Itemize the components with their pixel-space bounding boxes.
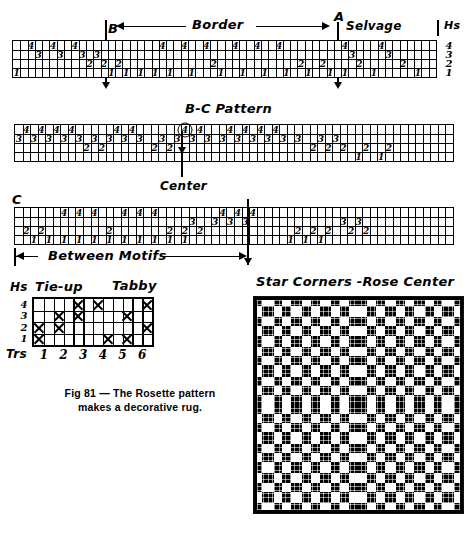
threading-mark: 4 (114, 125, 120, 134)
threading-mark: 4 (152, 208, 158, 217)
threading-mark: 3 (121, 134, 127, 143)
tieup-mark[interactable] (73, 299, 83, 311)
threading-mark: 2 (38, 226, 44, 235)
threading-mark: 2 (348, 226, 354, 235)
threading-mark: 1 (378, 152, 384, 161)
tieup-grid-line-h (34, 311, 152, 312)
threading-mark: 2 (310, 226, 316, 235)
treadle-label-3[interactable]: 3 (79, 349, 87, 361)
threading-mark: 2 (325, 143, 331, 152)
draft2-label-center: Center (160, 180, 207, 192)
threading-mark: 4 (38, 125, 44, 134)
threading-draft-bc-pattern[interactable]: 3434343432323434323234343343434343323232… (14, 124, 454, 162)
threading-draft-border[interactable]: 1434343232121114141421414141212141321432… (12, 40, 437, 78)
between-motifs-arrow-left (16, 252, 24, 260)
treadle-label-1[interactable]: 1 (40, 349, 48, 361)
threading-mark: 4 (242, 125, 248, 134)
threading-mark: 4 (159, 41, 165, 50)
threading-mark: 4 (129, 125, 135, 134)
threading-mark: 4 (136, 208, 142, 217)
threading-mark: 4 (227, 125, 233, 134)
threading-mark: 4 (197, 125, 203, 134)
threading-mark: 4 (76, 208, 82, 217)
tieup-mark[interactable] (103, 334, 113, 346)
threading-mark: 4 (220, 208, 226, 217)
tieup-tabby-grid[interactable]: 4321123456 (32, 297, 154, 347)
threading-mark: 3 (227, 217, 233, 226)
treadle-label-6[interactable]: 6 (138, 349, 146, 361)
threading-mark: 1 (152, 235, 158, 244)
draft1-label-border: Border (192, 18, 244, 31)
threading-mark: 1 (152, 68, 158, 77)
tieup-mark[interactable] (123, 334, 133, 346)
threading-mark: 3 (235, 134, 241, 143)
threading-mark: 4 (121, 208, 127, 217)
threading-mark: 1 (76, 235, 82, 244)
draft3-label-C: C (12, 193, 22, 206)
threading-mark: 2 (320, 59, 326, 68)
threading-mark: 2 (84, 143, 90, 152)
threading-mark: 3 (280, 134, 286, 143)
tieup-mark[interactable] (34, 334, 44, 346)
tieup-mark[interactable] (142, 322, 152, 334)
tieup-mark[interactable] (73, 311, 83, 323)
threading-mark: 4 (91, 208, 97, 217)
tieup-mark[interactable] (54, 311, 64, 323)
threading-mark: 3 (189, 134, 195, 143)
threading-mark: 2 (310, 143, 316, 152)
harness-legend-1: 1 (446, 68, 453, 78)
threading-mark: 3 (349, 50, 355, 59)
threading-mark: 1 (287, 235, 293, 244)
drawdown-title: Star Corners -Rose Center (256, 275, 454, 288)
tieup-title: Tie-up (35, 280, 83, 293)
tieup-mark[interactable] (142, 299, 152, 311)
threading-mark: 1 (327, 68, 333, 77)
treadle-label-2[interactable]: 2 (59, 349, 67, 361)
draft1-label-hs: Hs (444, 20, 460, 31)
tieup-row-label-4: 4 (21, 300, 28, 310)
threading-mark: 1 (91, 235, 97, 244)
threading-mark: 2 (295, 226, 301, 235)
threading-mark: 3 (355, 217, 361, 226)
tieup-mark[interactable] (34, 322, 44, 334)
threading-mark: 2 (363, 226, 369, 235)
threading-mark: 4 (72, 41, 78, 50)
treadle-label-5[interactable]: 5 (118, 349, 126, 361)
draft1-label-selvage: Selvage (346, 20, 402, 32)
threading-mark: 3 (35, 50, 41, 59)
threading-mark: 1 (137, 68, 143, 77)
treadle-label-4[interactable]: 4 (99, 349, 107, 361)
draft1-marker-B-arrow (102, 82, 110, 89)
threading-mark: 3 (79, 50, 85, 59)
threading-mark: 2 (400, 59, 406, 68)
threading-mark: 4 (28, 41, 34, 50)
threading-mark: 3 (16, 134, 22, 143)
threading-mark: 2 (152, 143, 158, 152)
tieup-mark[interactable] (54, 322, 64, 334)
threading-mark: 4 (232, 41, 238, 50)
threading-mark: 2 (363, 143, 369, 152)
threading-mark: 2 (210, 59, 216, 68)
threading-mark: 4 (276, 41, 282, 50)
threading-mark: 1 (261, 68, 267, 77)
tabby-title: Tabby (112, 279, 157, 292)
threading-mark: 1 (14, 68, 20, 77)
tieup-mark[interactable] (93, 299, 103, 311)
threading-mark: 4 (254, 41, 260, 50)
draft1-label-A: A (334, 10, 344, 23)
threading-draft-between-motifs[interactable]: 2121414141214141412121323434341212123232 (14, 207, 454, 245)
threading-mark: 1 (240, 68, 246, 77)
threading-mark: 2 (298, 59, 304, 68)
threading-mark: 2 (356, 59, 362, 68)
threading-mark: 3 (136, 134, 142, 143)
threading-mark: 1 (61, 235, 67, 244)
draft1-border-arrow-left-shaft (124, 26, 186, 27)
figure-caption-line2: makes a decorative rug. (40, 400, 240, 414)
draft1-hs-divider (437, 20, 439, 36)
tieup-mark[interactable] (123, 311, 133, 323)
threading-mark: 4 (61, 208, 67, 217)
tieup-label-hs: Hs (10, 281, 28, 293)
threading-mark: 1 (218, 68, 224, 77)
threading-mark: 1 (305, 68, 311, 77)
threading-mark: 1 (106, 235, 112, 244)
